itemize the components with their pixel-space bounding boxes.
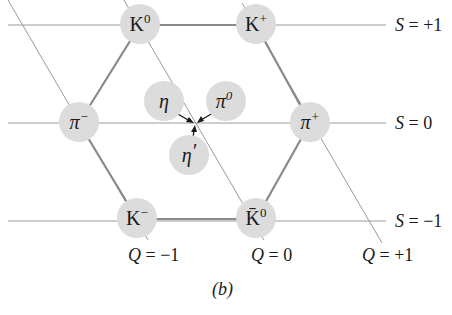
- meson-nonet-diagram: K0 K+ π− π+ K− K̄0 η π0 η′ S = +1 S = 0 …: [0, 0, 452, 315]
- particle-piplus: π+: [290, 102, 330, 142]
- label-s-minus1: S = −1: [395, 211, 442, 231]
- particle-Kplus: K+: [236, 4, 276, 44]
- particle-pi0: π0: [206, 81, 246, 121]
- hexagon: [79, 25, 310, 219]
- particle-K0bar: K̄0: [236, 198, 276, 238]
- label-s-plus1: S = +1: [395, 15, 442, 35]
- svg-text:η: η: [159, 90, 169, 113]
- label-q-plus1: Q = +1: [362, 245, 413, 265]
- particle-etaprime: η′: [169, 135, 209, 175]
- particle-piminus: π−: [59, 102, 99, 142]
- particle-eta: η: [144, 81, 184, 121]
- label-s-zero: S = 0: [395, 113, 432, 133]
- particle-K0: K0: [120, 4, 160, 44]
- label-q-zero: Q = 0: [251, 245, 292, 265]
- pi0-arrowhead-icon: [197, 116, 204, 123]
- center-arrows: [176, 113, 213, 138]
- particle-Kminus: K−: [117, 198, 157, 238]
- etaprime-arrowhead-icon: [191, 125, 197, 132]
- label-q-minus1: Q = −1: [128, 245, 179, 265]
- figure-caption: (b): [212, 279, 233, 300]
